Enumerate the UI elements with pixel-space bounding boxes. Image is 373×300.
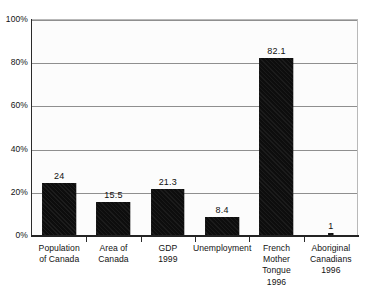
bar-slot: 82.1 [249, 20, 303, 235]
x-category-label-line: 1996 [294, 265, 368, 276]
x-axis-category-labels: Populationof CanadaArea ofCanadaGDP1999U… [32, 243, 358, 300]
bar-slot: 21.3 [141, 20, 195, 235]
bar-value-label: 21.3 [159, 177, 177, 187]
y-tick-label: 80% [11, 57, 28, 67]
x-axis-tick [195, 237, 196, 242]
bar-value-label: 82.1 [267, 46, 285, 56]
x-category-label-line: Aboriginal [294, 243, 368, 254]
plot-area: 2415.521.38.482.11 [32, 19, 358, 235]
x-category-label-line: Canadians [294, 254, 368, 265]
x-axis-tick [141, 237, 142, 242]
bar[interactable] [151, 189, 185, 235]
y-tick-label: 40% [11, 144, 28, 154]
y-tick-label: 0% [16, 230, 29, 240]
y-tick-label: 20% [11, 187, 28, 197]
x-axis-tick [304, 237, 305, 242]
bar-value-label: 8.4 [216, 205, 229, 215]
bar[interactable] [260, 58, 294, 235]
x-axis-tick [249, 237, 250, 242]
bar[interactable] [42, 183, 76, 235]
bar-slot: 24 [32, 20, 86, 235]
x-category-label-line: 1996 [240, 277, 314, 288]
x-axis-tick [86, 237, 87, 242]
bar-slot: 1 [304, 20, 358, 235]
bars-layer: 2415.521.38.482.11 [32, 20, 357, 235]
bar-value-label: 24 [54, 171, 64, 181]
bar-value-label: 15.5 [104, 190, 122, 200]
bar-slot: 15.5 [86, 20, 140, 235]
x-axis-ticks [32, 237, 358, 242]
y-tick-label: 60% [11, 100, 28, 110]
bar[interactable] [205, 217, 239, 235]
bar[interactable] [97, 202, 131, 235]
y-tick-label: 100% [6, 14, 28, 24]
x-category-label-line: 1999 [131, 254, 205, 265]
x-category-label: AboriginalCanadians1996 [294, 243, 368, 277]
bar-chart-figure: 0%20%40%60%80%100% 2415.521.38.482.11 Po… [0, 0, 373, 300]
bar-value-label: 1 [328, 221, 333, 231]
bar-slot: 8.4 [195, 20, 249, 235]
